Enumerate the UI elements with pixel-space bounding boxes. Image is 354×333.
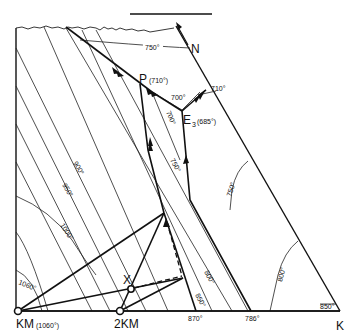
label-N: N: [191, 42, 200, 56]
phase-diagram: N K KM (1060°) 2KM X P (710°) E 3 (685°)…: [0, 0, 354, 333]
label-P: P: [139, 72, 147, 86]
isotherm-750-top: 750°: [145, 44, 160, 51]
axis-786: 786°: [245, 315, 260, 322]
label-E3: E: [183, 113, 191, 127]
label-E3-sub: 3: [192, 121, 196, 128]
point-KM: [15, 308, 22, 315]
isotherm-850-corner: 850°: [320, 303, 335, 310]
label-P-temp: (710°): [149, 77, 168, 85]
isotherm-850-mid: 850°: [194, 292, 207, 308]
arrow-to-E3-left: [146, 88, 158, 97]
label-K: K: [336, 319, 344, 333]
label-KM-temp: (1060°): [36, 322, 59, 330]
isotherm-700-a: 700°: [171, 94, 186, 101]
isotherm-710: 710°: [211, 85, 226, 92]
label-KM: KM: [16, 317, 34, 331]
isotherm-900: 900°: [72, 160, 85, 176]
isotherm-950: 950°: [61, 182, 74, 198]
label-X: X: [123, 273, 131, 287]
isotherm-1060: 1060°: [18, 278, 38, 291]
labels: N K KM (1060°) 2KM X P (710°) E 3 (685°)…: [16, 42, 344, 333]
arrow-up-triangle: [163, 218, 170, 227]
isotherm-1000: 1000°: [59, 222, 75, 241]
arrow-up-left-curve: [148, 137, 153, 151]
isotherm-750-right: 750°: [225, 181, 236, 197]
isotherm-800-right: 800°: [276, 266, 286, 282]
arrow-up-right-curve: [183, 155, 189, 164]
label-2KM: 2KM: [114, 317, 139, 331]
wavy-top-edge: [16, 26, 174, 32]
boundary-curves: [66, 27, 251, 311]
isotherm-700-b: 700°: [165, 110, 177, 126]
point-2KM: [117, 308, 124, 315]
axis-870: 870°: [188, 315, 203, 322]
isotherm-800-mid: 800°: [203, 269, 216, 285]
label-E3-temp: (685°): [197, 118, 216, 126]
